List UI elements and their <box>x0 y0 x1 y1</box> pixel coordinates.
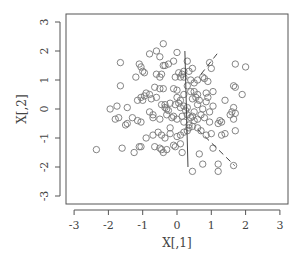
x-tick-label: 2 <box>242 219 249 232</box>
y-tick-label: 0 <box>38 106 51 113</box>
x-tick-label: -2 <box>103 219 114 232</box>
y-tick-label: -3 <box>38 191 51 202</box>
y-axis-title: X[,2] <box>15 94 29 123</box>
x-tick-label: -3 <box>69 219 80 232</box>
y-tick-label: 3 <box>38 19 51 26</box>
x-tick-label: -1 <box>137 219 148 232</box>
scatter-plot: -3-2-10123 -3-2-10123 X[,1] X[,2] <box>0 0 302 267</box>
x-tick-label: 1 <box>208 219 215 232</box>
y-tick-label: -2 <box>38 162 51 173</box>
x-axis-title: X[,1] <box>162 236 191 250</box>
x-tick-label: 3 <box>276 219 283 232</box>
y-tick-label: -1 <box>38 133 51 144</box>
y-tick-label: 1 <box>38 77 51 84</box>
x-tick-label: 0 <box>174 219 181 232</box>
y-tick-label: 2 <box>38 48 51 55</box>
